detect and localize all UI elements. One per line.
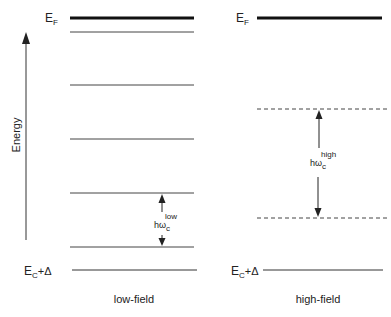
- energy-axis-arrowhead-icon: [22, 32, 30, 44]
- right-panel-high-field: EF hωchigh EC+Δ high-field: [231, 11, 389, 305]
- right-spacing-arrowhead-down-icon: [315, 208, 322, 217]
- energy-axis: Energy: [10, 32, 30, 240]
- left-panel-low-field: EF hωclow EC+Δ low-field: [24, 11, 197, 305]
- left-spacing-arrowhead-down-icon: [159, 238, 166, 246]
- left-bottom-label: EC+Δ: [24, 264, 52, 280]
- left-spacing-label: hωclow: [154, 212, 177, 233]
- right-fermi-label: EF: [236, 11, 249, 27]
- left-spacing-arrowhead-up-icon: [159, 194, 166, 203]
- left-fermi-label: EF: [45, 11, 58, 27]
- right-bottom-label: EC+Δ: [231, 264, 259, 280]
- right-panel-caption: high-field: [296, 293, 341, 305]
- left-panel-caption: low-field: [114, 293, 154, 305]
- energy-axis-label: Energy: [10, 117, 22, 152]
- right-spacing-label: hωchigh: [310, 150, 336, 171]
- right-spacing-arrowhead-up-icon: [316, 110, 323, 119]
- landau-level-diagram: Energy EF hωclow EC+Δ low-field EF hωchi…: [0, 0, 391, 317]
